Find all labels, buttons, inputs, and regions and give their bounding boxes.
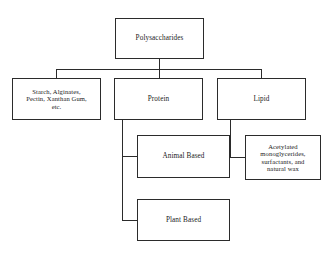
- node-plant-based-label: Plant Based: [166, 216, 201, 224]
- node-starch-alginates-label: Starch, Alginates, Pectin, Xanthan Gum, …: [26, 88, 87, 110]
- node-polysaccharides-label: Polysaccharides: [136, 34, 184, 42]
- node-polysaccharides: Polysaccharides: [115, 18, 204, 59]
- node-animal-based-label: Animal Based: [162, 152, 204, 160]
- node-starch-alginates: Starch, Alginates, Pectin, Xanthan Gum, …: [12, 78, 101, 120]
- node-animal-based: Animal Based: [137, 135, 230, 178]
- node-protein-label: Protein: [148, 95, 169, 103]
- node-lipid: Lipid: [217, 78, 306, 120]
- node-protein: Protein: [114, 78, 203, 120]
- node-acetylated-monoglycerides: Acetylated monoglycerides, surfactants, …: [245, 135, 321, 180]
- node-lipid-label: Lipid: [253, 95, 269, 103]
- node-plant-based: Plant Based: [137, 199, 230, 241]
- node-acetylated-monoglycerides-label: Acetylated monoglycerides, surfactants, …: [260, 143, 305, 173]
- diagram-canvas: Polysaccharides Starch, Alginates, Pecti…: [0, 0, 334, 253]
